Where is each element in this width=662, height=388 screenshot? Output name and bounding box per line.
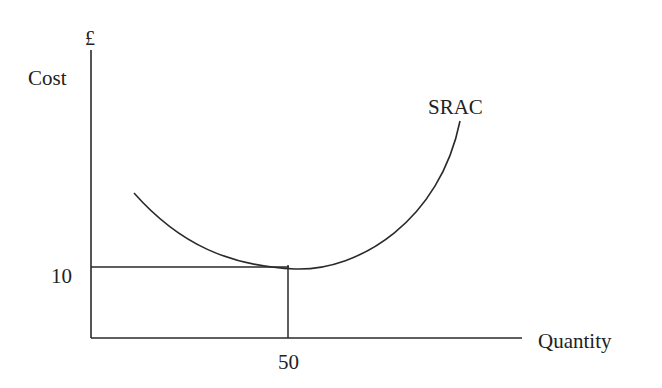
y-axis-label: Cost	[28, 68, 67, 89]
currency-label: £	[85, 28, 95, 48]
x-axis-label: Quantity	[538, 331, 612, 352]
x-tick-label: 50	[278, 352, 299, 373]
srac-curve	[134, 121, 460, 269]
y-tick-label: 10	[51, 266, 72, 287]
curve-label: SRAC	[428, 97, 483, 118]
